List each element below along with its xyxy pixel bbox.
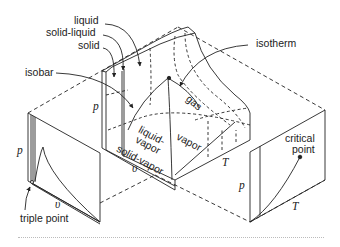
pT-projection-panel <box>250 110 325 222</box>
axis-pT-T: T <box>292 201 298 213</box>
dotted-separator <box>18 237 324 238</box>
axis-pv-p: p <box>17 145 23 157</box>
pv-projection-panel <box>28 113 100 224</box>
label-solid: solid <box>78 40 100 51</box>
label-liquid: liquid <box>74 15 99 26</box>
projection-box-dashed <box>28 27 325 222</box>
label-isobar: isobar <box>25 67 54 78</box>
label-critical-point-1: critical <box>285 133 315 144</box>
axis-main-v: υ <box>132 163 137 175</box>
label-isotherm: isotherm <box>256 38 296 49</box>
axis-main-T: T <box>222 157 228 169</box>
label-solid-liquid: solid-liquid <box>46 27 96 38</box>
label-critical-point-2: point <box>292 144 315 155</box>
axis-main-p: p <box>93 101 99 113</box>
axis-pv-v: υ <box>55 199 60 211</box>
axis-pT-p: p <box>239 180 245 192</box>
label-triple-point: triple point <box>20 213 68 224</box>
